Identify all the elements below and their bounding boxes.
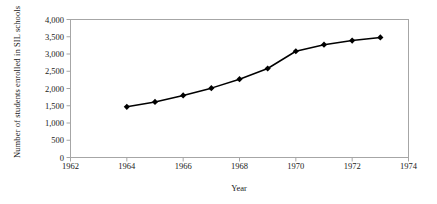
x-tick-label: 1964: [107, 162, 147, 171]
x-tick-label: 1972: [332, 162, 372, 171]
data-point-marker: [180, 92, 186, 98]
plot-area: [0, 0, 437, 204]
data-point-marker: [152, 99, 158, 105]
x-tick-label: 1974: [389, 162, 429, 171]
data-point-marker: [236, 76, 242, 82]
line-chart: Number of students enrolled in SIL schoo…: [0, 0, 437, 204]
x-tick-label: 1966: [163, 162, 203, 171]
data-line: [127, 37, 380, 106]
x-tick-label: 1970: [276, 162, 316, 171]
data-point-marker: [208, 85, 214, 91]
data-markers: [124, 34, 384, 110]
data-point-marker: [124, 104, 130, 110]
data-point-marker: [377, 34, 383, 40]
x-tick-label: 1962: [51, 162, 91, 171]
x-tick-label: 1968: [220, 162, 260, 171]
x-axis-title: Year: [70, 183, 408, 193]
data-point-marker: [321, 42, 327, 48]
data-point-marker: [349, 37, 355, 43]
y-tick-marks: [67, 20, 71, 158]
